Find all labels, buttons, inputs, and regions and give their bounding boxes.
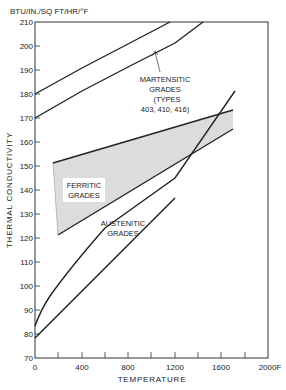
svg-text:130: 130	[20, 210, 34, 219]
svg-text:403, 410, 416): 403, 410, 416)	[141, 105, 190, 114]
unit-label: BTU/IN./SQ FT/HR/°F	[10, 7, 88, 16]
svg-text:110: 110	[20, 258, 33, 267]
x-tick-labels: 0 400 800 1200 1600 2000F	[33, 363, 282, 372]
svg-text:1600: 1600	[212, 363, 230, 372]
svg-text:AUSTENITIC: AUSTENITIC	[101, 219, 146, 228]
svg-text:150: 150	[20, 162, 34, 171]
martensitic-arrow	[155, 52, 160, 72]
svg-text:80: 80	[24, 330, 33, 339]
martensitic-annotation: MARTENSITIC GRADES (TYPES 403, 410, 416)	[140, 75, 191, 114]
svg-text:1200: 1200	[166, 363, 184, 372]
svg-text:400: 400	[75, 363, 89, 372]
ferritic-annotation: FERRITIC GRADES	[63, 178, 105, 202]
svg-text:70: 70	[24, 354, 33, 363]
x-axis	[58, 352, 245, 358]
y-tick-labels: 70 80 90 100 110 120 130 140 150 160 170…	[20, 18, 34, 363]
svg-text:0: 0	[33, 363, 38, 372]
svg-text:GRADES: GRADES	[149, 85, 181, 94]
y-axis	[35, 46, 40, 334]
svg-text:100: 100	[20, 282, 34, 291]
svg-text:GRADES: GRADES	[68, 191, 100, 200]
svg-text:800: 800	[121, 363, 135, 372]
svg-text:2000F: 2000F	[259, 363, 282, 372]
svg-text:200: 200	[20, 42, 34, 51]
x-axis-title: TEMPERATURE	[118, 375, 187, 384]
svg-text:190: 190	[20, 66, 34, 75]
svg-text:GRADES: GRADES	[107, 229, 139, 238]
svg-text:210: 210	[20, 18, 34, 27]
ferritic-band	[53, 110, 233, 235]
svg-text:90: 90	[24, 306, 33, 315]
svg-text:FERRITIC: FERRITIC	[67, 181, 102, 190]
svg-text:(TYPES: (TYPES	[153, 95, 180, 104]
y-axis-title: THERMAL CONDUCTIVITY	[5, 132, 14, 248]
svg-text:140: 140	[20, 186, 34, 195]
svg-text:170: 170	[20, 114, 34, 123]
thermal-conductivity-chart: BTU/IN./SQ FT/HR/°F 70 80 90 100 110 120…	[0, 0, 286, 390]
svg-text:160: 160	[20, 138, 34, 147]
svg-text:180: 180	[20, 90, 34, 99]
svg-text:120: 120	[20, 234, 34, 243]
austenitic-annotation: AUSTENITIC GRADES	[101, 219, 146, 238]
svg-text:MARTENSITIC: MARTENSITIC	[140, 75, 191, 84]
